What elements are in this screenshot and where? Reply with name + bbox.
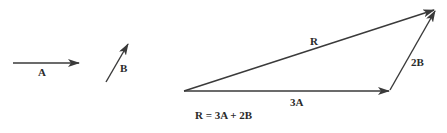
vector-r-label: R	[310, 35, 319, 47]
vector-a: A	[13, 63, 79, 78]
vector-addition-diagram: A B 3A 2B R R = 3A + 2B	[0, 0, 447, 133]
vector-b-label: B	[120, 62, 128, 74]
vector-2b-arrow	[390, 11, 435, 90]
vector-2b: 2B	[390, 11, 435, 90]
vector-b: B	[106, 44, 128, 82]
vector-2b-label: 2B	[411, 56, 425, 68]
vector-a-label: A	[38, 66, 46, 78]
vector-3a: 3A	[184, 91, 389, 108]
equation-label: R = 3A + 2B	[195, 109, 253, 121]
vector-3a-label: 3A	[290, 96, 304, 108]
